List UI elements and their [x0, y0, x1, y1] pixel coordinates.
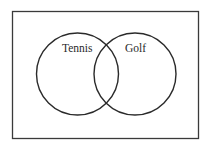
tennis-label: Tennis	[62, 42, 93, 54]
venn-diagram: Tennis Golf	[0, 0, 208, 145]
universe-rectangle	[13, 12, 199, 139]
golf-label: Golf	[125, 42, 146, 54]
